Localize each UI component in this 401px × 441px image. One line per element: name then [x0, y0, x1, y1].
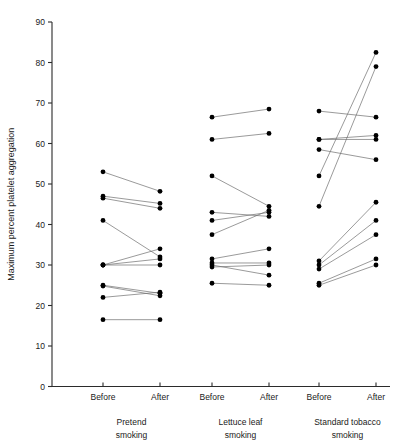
data-point-before: [317, 174, 322, 179]
data-point-before: [210, 265, 215, 270]
data-point-after: [374, 137, 379, 142]
pair-connector-line: [319, 52, 376, 176]
pair-connector-line: [212, 133, 269, 139]
data-point-after: [374, 64, 379, 69]
pair-connector-line: [103, 249, 160, 265]
pair-connector-line: [319, 67, 376, 207]
y-axis-tick-label: 70: [36, 98, 46, 108]
chart-axes: [52, 22, 390, 387]
group-label-line1: Lettuce leaf: [219, 417, 264, 427]
data-point-before: [101, 295, 106, 300]
pair-connector-line: [212, 265, 269, 267]
y-axis-tick-label: 0: [40, 382, 45, 392]
data-point-before: [317, 267, 322, 272]
y-axis-tick-label: 40: [36, 220, 46, 230]
platelet-aggregation-chart: 0102030405060708090BeforeAfterPretendsmo…: [0, 0, 401, 441]
pair-connector-line: [319, 259, 376, 283]
data-point-after: [158, 189, 163, 194]
y-axis-tick-label: 60: [36, 139, 46, 149]
data-point-before: [210, 210, 215, 215]
group-label-line2: smoking: [225, 430, 257, 440]
data-point-before: [101, 263, 106, 268]
pair-connector-line: [212, 212, 269, 216]
data-point-after: [267, 208, 272, 213]
pair-connector-line: [319, 220, 376, 265]
data-point-after: [267, 131, 272, 136]
group-label-line1: Standard tobacco: [314, 417, 381, 427]
data-point-after: [374, 200, 379, 205]
data-point-after: [267, 263, 272, 268]
chart-svg: 0102030405060708090BeforeAfterPretendsmo…: [0, 0, 401, 441]
data-point-before: [210, 218, 215, 223]
pair-connector-line: [319, 265, 376, 285]
data-point-after: [374, 263, 379, 268]
x-axis-tick-label: Before: [199, 392, 224, 402]
data-point-before: [317, 204, 322, 209]
pair-connector-line: [103, 172, 160, 191]
data-point-after: [267, 107, 272, 112]
data-point-before: [101, 317, 106, 322]
pair-connector-line: [103, 292, 160, 297]
pair-connector-line: [212, 212, 269, 220]
data-point-before: [317, 147, 322, 152]
y-axis-tick-label: 20: [36, 301, 46, 311]
data-point-after: [374, 115, 379, 120]
data-point-after: [267, 246, 272, 251]
x-axis-tick-label: After: [367, 392, 385, 402]
y-axis-tick-label: 90: [36, 17, 46, 27]
data-point-after: [374, 157, 379, 162]
pair-connector-line: [103, 259, 160, 265]
pair-connector-line: [103, 286, 160, 296]
data-point-before: [101, 196, 106, 201]
data-point-before: [101, 284, 106, 289]
data-point-before: [210, 137, 215, 142]
data-point-after: [158, 201, 163, 206]
data-point-after: [158, 290, 163, 295]
data-point-before: [210, 232, 215, 237]
data-point-after: [158, 317, 163, 322]
pair-connector-line: [212, 210, 269, 234]
data-point-before: [101, 218, 106, 223]
pair-connector-line: [212, 109, 269, 117]
data-point-after: [158, 257, 163, 262]
x-axis-tick-label: Before: [306, 392, 331, 402]
data-point-before: [101, 169, 106, 174]
data-point-before: [317, 137, 322, 142]
data-point-before: [317, 109, 322, 114]
data-point-after: [158, 246, 163, 251]
pair-connector-line: [212, 249, 269, 259]
data-point-before: [210, 174, 215, 179]
data-point-after: [158, 263, 163, 268]
data-point-after: [374, 232, 379, 237]
pair-connector-line: [103, 285, 160, 293]
data-point-after: [267, 283, 272, 288]
x-axis-tick-label: After: [151, 392, 169, 402]
x-axis-tick-label: After: [260, 392, 278, 402]
group-label-line1: Pretend: [117, 417, 147, 427]
pair-connector-line: [212, 176, 269, 206]
data-point-after: [374, 50, 379, 55]
pair-connector-line: [212, 283, 269, 285]
data-point-before: [210, 115, 215, 120]
y-axis-tick-label: 50: [36, 179, 46, 189]
data-point-before: [317, 283, 322, 288]
group-label-line2: smoking: [116, 430, 148, 440]
x-axis-tick-label: Before: [90, 392, 115, 402]
y-axis-tick-label: 80: [36, 58, 46, 68]
group-label-line2: smoking: [332, 430, 364, 440]
data-point-before: [210, 281, 215, 286]
data-point-after: [158, 206, 163, 211]
data-point-after: [374, 257, 379, 262]
y-axis-title: Maximum percent platelet aggregation: [6, 128, 16, 281]
data-point-after: [267, 273, 272, 278]
y-axis-tick-label: 30: [36, 260, 46, 270]
y-axis-tick-label: 10: [36, 341, 46, 351]
data-point-after: [374, 218, 379, 223]
